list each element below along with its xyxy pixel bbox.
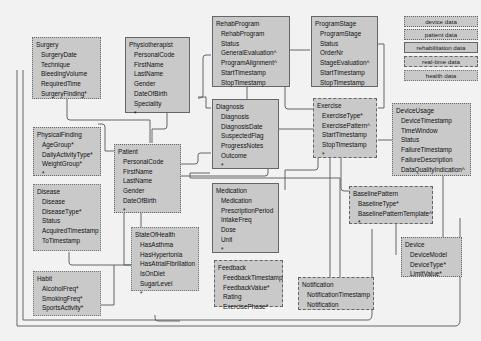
entity-attribute: LimitValue*: [405, 269, 458, 279]
entity-disease[interactable]: Disease Disease DiseaseType* Status Acqu…: [33, 184, 101, 251]
entity-attribute: DiagnosisDate: [216, 122, 275, 132]
rehab-exercise-link: [285, 86, 313, 109]
entity-title: Physiotherapist: [129, 40, 186, 50]
entity-attribute: HasAsthma: [135, 240, 195, 250]
entity-attribute: FirstName: [129, 60, 186, 70]
entity-attribute: *: [216, 161, 275, 171]
entity-attribute: RehabProgram: [216, 29, 286, 39]
entity-programstage[interactable]: ProgramStage ProgramStage Status OrderNr…: [311, 16, 378, 87]
entity-attribute: RequiredTime: [36, 79, 97, 89]
entity-title: DeviceUsage: [396, 106, 467, 116]
entity-attribute: IsOnDiet: [135, 269, 195, 279]
entity-attribute: Status: [216, 39, 286, 49]
entity-attribute: FailureDescription: [396, 155, 467, 165]
entity-title: PhysicalFinding: [37, 130, 97, 140]
entity-title: ProgramStage: [315, 19, 374, 29]
entity-physiotherapist[interactable]: Physiotherapist PersonalCode FirstName L…: [125, 37, 190, 113]
entity-attribute: Speciality: [129, 99, 186, 109]
entity-attribute: ExerciseType*: [317, 111, 373, 121]
entity-attribute: StopTimestamp: [317, 140, 373, 150]
entity-title: Habit: [37, 274, 97, 284]
entity-title: Surgery: [36, 40, 97, 50]
legend-device-data: device data: [404, 16, 478, 27]
entity-deviceusage[interactable]: DeviceUsage DeviceTimestamp TimeWindow S…: [392, 103, 471, 176]
entity-exercise[interactable]: Exercise ExerciseType* ExercisePattern^ …: [313, 98, 377, 158]
entity-title: Device: [405, 240, 458, 250]
entity-attribute: SportsActivity*: [37, 303, 97, 313]
entity-patient[interactable]: Patient PersonalCode FirstName LastName …: [114, 144, 181, 213]
entity-stateofhealth[interactable]: StateOfHealth HasAsthma HasHypertonia Ha…: [131, 227, 199, 291]
entity-attribute: ToTimestamp: [37, 236, 97, 246]
legend-health-data: health data: [404, 70, 478, 81]
physio-diagnosis-link: [198, 97, 211, 108]
entity-attribute: SmokingFreq*: [37, 294, 97, 304]
entity-attribute: DataQualityIndication^: [396, 165, 467, 175]
entity-attribute: StartTimestamp: [216, 68, 286, 78]
entity-title: RehabProgram: [216, 19, 286, 29]
entity-attribute: ExercisePattern^: [317, 121, 373, 131]
entity-attribute: ProgramStage: [315, 29, 374, 39]
entity-diagnosis[interactable]: Diagnosis Diagnosis DiagnosisDate Suspec…: [212, 99, 279, 169]
entity-attribute: BaselineType*: [353, 199, 429, 209]
entity-attribute: ProgressNotes: [216, 141, 275, 151]
entity-attribute: SugarLevel: [135, 279, 195, 289]
entity-attribute: DeviceModel: [405, 250, 458, 260]
entity-title: Patient: [118, 147, 177, 157]
entity-attribute: DateOfBirth: [129, 89, 186, 99]
entity-attribute: Notification: [302, 300, 370, 310]
entity-medication[interactable]: Medication Medication PrescriptionPeriod…: [212, 183, 279, 253]
entity-habit[interactable]: Habit AlcoholFreq* SmokingFreq* SportsAc…: [33, 271, 101, 316]
entity-attribute: FailureTimestamp: [396, 145, 467, 155]
entity-attribute: BaselinePatternTemplate^: [353, 209, 429, 219]
entity-attribute: ExercisePhase*: [218, 302, 279, 312]
entity-rehabprogram[interactable]: RehabProgram RehabProgram Status General…: [212, 16, 290, 87]
entity-attribute: Dose: [216, 225, 275, 235]
entity-attribute: StartTimestamp: [315, 68, 374, 78]
entity-attribute: ProgramAlignment^: [216, 58, 286, 68]
entity-attribute: LastName: [118, 176, 177, 186]
entity-attribute: PersonalCode: [118, 157, 177, 167]
entity-attribute: *: [135, 289, 195, 299]
entity-attribute: Gender: [118, 186, 177, 196]
entity-feedback[interactable]: Feedback FeedbackTimestamp FeedbackValue…: [214, 260, 283, 307]
entity-attribute: PrescriptionPeriod: [216, 206, 275, 216]
entity-attribute: SurgeryDate: [36, 50, 97, 60]
entity-attribute: TimeWindow: [396, 126, 467, 136]
entity-device[interactable]: Device DeviceModel DeviceType* LimitValu…: [401, 237, 462, 277]
entity-notification[interactable]: Notification NotificationTimestamp Notif…: [298, 277, 374, 310]
entity-title: BaselinePattern: [353, 189, 429, 199]
habit-link: [100, 265, 114, 305]
entity-attribute: OrderNr: [315, 48, 374, 58]
entity-attribute: LastName: [129, 69, 186, 79]
entity-attribute: FirstName: [118, 167, 177, 177]
legend-real-time-data: real-time data: [404, 56, 478, 67]
entity-attribute: Status: [396, 135, 467, 145]
entity-attribute: DateOfBirth: [118, 196, 177, 206]
entity-title: Medication: [216, 186, 275, 196]
entity-physicalfinding[interactable]: PhysicalFinding AgeGroup* DailyActivityT…: [33, 127, 101, 176]
entity-attribute: PersonalCode: [129, 50, 186, 60]
entity-attribute: StageEvaluation^: [315, 58, 374, 68]
entity-attribute: StopTimestamp: [315, 78, 374, 88]
entity-attribute: Outcome: [216, 151, 275, 161]
entity-attribute: Rating: [218, 292, 279, 302]
entity-attribute: StopTimestamp: [216, 78, 286, 88]
entity-attribute: DailyActivityType*: [37, 150, 97, 160]
entity-attribute: *: [129, 109, 186, 119]
entity-surgery[interactable]: Surgery SurgeryDate Technique BleedingVo…: [32, 37, 101, 99]
entity-attribute: NotificationTimestamp: [302, 290, 370, 300]
legend-rehabilitation-data: rehabilitation data: [404, 42, 478, 53]
physio-rehab-link: [198, 55, 211, 98]
entity-attribute: *: [118, 206, 177, 216]
entity-attribute: SurgeryFinding*: [36, 89, 97, 99]
entity-baselinepattern[interactable]: BaselinePattern BaselineType* BaselinePa…: [349, 186, 433, 224]
entity-title: StateOfHealth: [135, 230, 195, 240]
entity-attribute: AcquiredTimestamp: [37, 226, 97, 236]
entity-attribute: Diagnosis: [216, 112, 275, 122]
entity-attribute: DeviceType*: [405, 260, 458, 270]
entity-attribute: Status: [315, 39, 374, 49]
entity-attribute: HasAtrialFibrillation: [135, 259, 195, 269]
entity-attribute: Gender: [129, 79, 186, 89]
entity-attribute: AlcoholFreq*: [37, 284, 97, 294]
stage-exercise-link: [377, 44, 384, 108]
